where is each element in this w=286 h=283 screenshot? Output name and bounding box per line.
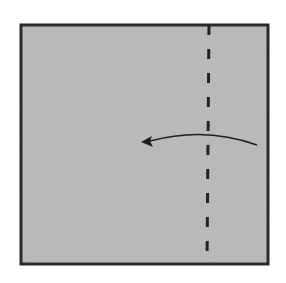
origami-diagram [0,0,286,283]
paper-texture [23,27,267,263]
